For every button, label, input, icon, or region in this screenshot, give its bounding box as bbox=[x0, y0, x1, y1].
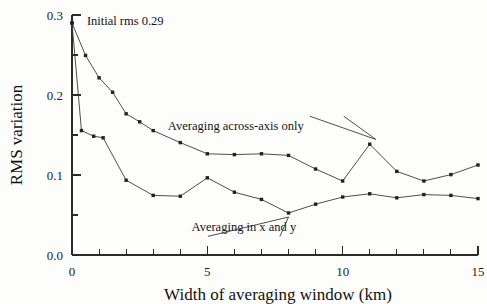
data-point bbox=[152, 129, 155, 132]
data-point bbox=[84, 54, 87, 57]
series-2 bbox=[70, 21, 479, 214]
x-tick-label: 15 bbox=[472, 264, 485, 279]
y-tick-label: 0.2 bbox=[47, 88, 63, 103]
data-point bbox=[476, 197, 479, 200]
y-tick-label: 0.1 bbox=[47, 168, 63, 183]
chart-annotations: Initial rms 0.29Averaging across-axis on… bbox=[87, 14, 376, 236]
data-point bbox=[179, 141, 182, 144]
data-point bbox=[368, 192, 371, 195]
figure-container: 051015 0.00.10.20.3 Initial rms 0.29Aver… bbox=[0, 0, 487, 304]
y-axis-tick-labels: 0.00.10.20.3 bbox=[47, 8, 63, 263]
series-leader-1 bbox=[310, 116, 376, 139]
initial-rms-note: Initial rms 0.29 bbox=[87, 14, 164, 28]
data-point bbox=[97, 76, 100, 79]
x-tick-label: 10 bbox=[336, 264, 349, 279]
x-tick-label: 0 bbox=[69, 264, 76, 279]
data-point bbox=[152, 194, 155, 197]
data-point bbox=[287, 154, 290, 157]
data-point bbox=[111, 91, 114, 94]
x-axis-ticks bbox=[72, 246, 478, 255]
x-axis-title: Width of averaging window (km) bbox=[164, 285, 392, 304]
data-point bbox=[70, 21, 73, 24]
data-point bbox=[287, 211, 290, 214]
data-point bbox=[422, 193, 425, 196]
data-point bbox=[395, 170, 398, 173]
data-point bbox=[179, 195, 182, 198]
data-point bbox=[341, 179, 344, 182]
data-point bbox=[260, 198, 263, 201]
data-point bbox=[422, 179, 425, 182]
data-point bbox=[80, 129, 83, 132]
data-point bbox=[233, 153, 236, 156]
data-series-group bbox=[70, 21, 479, 214]
data-point bbox=[233, 191, 236, 194]
data-point bbox=[449, 194, 452, 197]
y-tick-label: 0.0 bbox=[47, 248, 63, 263]
x-axis-tick-labels: 051015 bbox=[69, 264, 485, 279]
data-point bbox=[124, 179, 127, 182]
series-line bbox=[72, 23, 478, 181]
data-point bbox=[449, 173, 452, 176]
data-point bbox=[92, 135, 95, 138]
data-point bbox=[101, 136, 104, 139]
chart-axes bbox=[72, 15, 478, 255]
data-point bbox=[206, 152, 209, 155]
y-axis-title: RMS variation bbox=[7, 84, 26, 185]
data-point bbox=[314, 203, 317, 206]
data-point bbox=[206, 176, 209, 179]
data-point bbox=[476, 163, 479, 166]
data-point bbox=[124, 112, 127, 115]
data-point bbox=[395, 196, 398, 199]
x-tick-label: 5 bbox=[204, 264, 211, 279]
series-1 bbox=[70, 21, 479, 182]
data-point bbox=[260, 152, 263, 155]
data-point bbox=[314, 167, 317, 170]
data-point bbox=[341, 195, 344, 198]
rms-variation-line-chart: 051015 0.00.10.20.3 Initial rms 0.29Aver… bbox=[0, 0, 487, 304]
y-tick-label: 0.3 bbox=[47, 8, 63, 23]
data-point bbox=[138, 120, 141, 123]
data-point bbox=[368, 143, 371, 146]
series-label-1: Averaging across-axis only bbox=[168, 119, 305, 133]
y-axis-ticks bbox=[72, 15, 81, 255]
